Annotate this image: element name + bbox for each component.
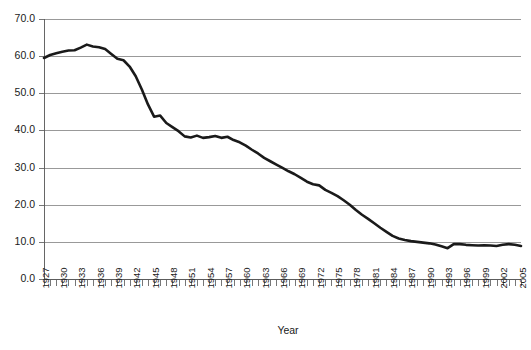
x-tick-label: 1981 <box>370 267 381 288</box>
x-tick-label: 1960 <box>241 267 252 288</box>
y-tick-label: 30.0 <box>15 161 36 173</box>
y-tick-label: 20.0 <box>15 198 36 210</box>
x-tick-label: 1939 <box>113 267 124 288</box>
x-tick-label: 1954 <box>205 267 216 288</box>
data-series <box>44 45 521 249</box>
x-tick-label: 1933 <box>76 267 87 288</box>
x-tick-label: 1978 <box>351 267 362 288</box>
series-line-rate <box>44 45 521 249</box>
x-axis-title: Year <box>277 324 299 336</box>
y-tick-label: 60.0 <box>15 49 36 61</box>
x-tick-label: 1942 <box>131 267 142 288</box>
x-tick-label: 1936 <box>95 267 106 288</box>
y-tick-label: 10.0 <box>15 235 36 247</box>
x-tick-label: 1993 <box>443 267 454 288</box>
x-tick-label: 1951 <box>186 267 197 288</box>
x-tick-label: 1984 <box>388 267 399 288</box>
x-tick-label: 1930 <box>58 267 69 288</box>
line-chart: 0.010.020.030.040.050.060.070.0 19271930… <box>0 0 531 350</box>
x-axis: 1927193019331936193919421945194819511954… <box>40 267 528 288</box>
y-axis: 0.010.020.030.040.050.060.070.0 <box>15 12 45 284</box>
y-tick-label: 40.0 <box>15 123 36 135</box>
x-tick-label: 2002 <box>498 267 509 288</box>
x-tick-label: 1999 <box>480 267 491 288</box>
x-tick-label: 1972 <box>315 267 326 288</box>
x-tick-label: 1969 <box>296 267 307 288</box>
chart-canvas: 0.010.020.030.040.050.060.070.0 19271930… <box>0 0 531 350</box>
x-tick-label: 1966 <box>278 267 289 288</box>
x-tick-label: 1987 <box>406 267 417 288</box>
x-tick-label: 1990 <box>425 267 436 288</box>
x-tick-label: 1948 <box>168 267 179 288</box>
x-tick-label: 1996 <box>461 267 472 288</box>
y-tick-label: 50.0 <box>15 86 36 98</box>
x-tick-label: 1975 <box>333 267 344 288</box>
x-tick-label: 1963 <box>260 267 271 288</box>
x-tick-label: 1927 <box>40 267 51 288</box>
x-tick-label: 1957 <box>223 267 234 288</box>
x-tick-label: 2005 <box>517 267 528 288</box>
y-tick-label: 70.0 <box>15 12 36 24</box>
y-tick-label: 0.0 <box>20 272 35 284</box>
x-tick-label: 1945 <box>150 267 161 288</box>
